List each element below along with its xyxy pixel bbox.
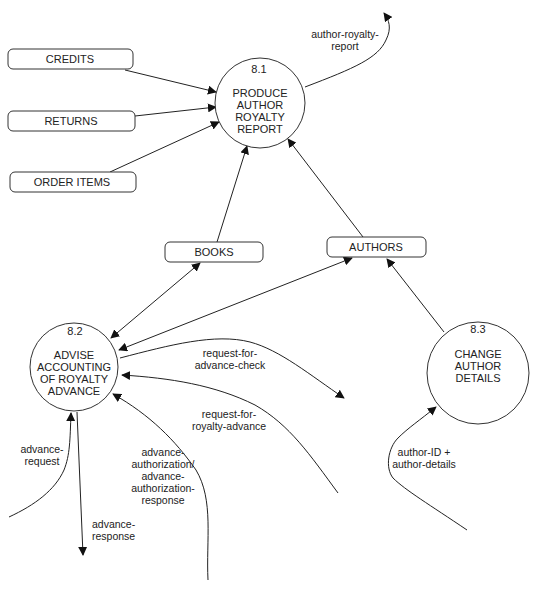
- flow-books-to-8-1: [217, 146, 247, 242]
- svg-text:authorization-: authorization-: [131, 482, 195, 494]
- flow-label-request-for-royalty-advance: request-for- royalty-advance: [192, 408, 266, 432]
- flow-returns-to-8-1: [135, 107, 216, 116]
- process-label-line: DETAILS: [455, 372, 500, 384]
- process-label-line: AUTHOR: [237, 99, 284, 111]
- process-label-line: ROYALTY: [235, 111, 285, 123]
- svg-text:royalty-advance: royalty-advance: [192, 420, 266, 432]
- data-store-label: RETURNS: [44, 115, 97, 127]
- flow-label-author-royalty-report: author-royalty- report: [311, 28, 379, 52]
- flow-advance-response: [77, 412, 83, 555]
- data-store-books[interactable]: BOOKS: [165, 242, 263, 262]
- flow-label-advance-request: advance- request: [20, 443, 64, 467]
- svg-text:author-details: author-details: [392, 458, 456, 470]
- data-store-label: BOOKS: [194, 246, 233, 258]
- flow-label-request-for-advance-check: request-for- advance-check: [195, 347, 266, 371]
- process-label-line: ADVISE: [54, 349, 94, 361]
- data-flow-diagram: CREDITS RETURNS ORDER ITEMS BOOKS AUTHOR…: [0, 0, 545, 595]
- flow-8-2-authors: [119, 258, 352, 350]
- process-label-line: PRODUCE: [232, 87, 287, 99]
- svg-text:request-for-: request-for-: [203, 347, 258, 359]
- svg-text:advance-: advance-: [141, 470, 185, 482]
- process-8-3[interactable]: 8.3 CHANGE AUTHOR DETAILS: [427, 322, 529, 424]
- process-8-1[interactable]: 8.1 PRODUCE AUTHOR ROYALTY REPORT: [215, 58, 305, 148]
- process-number: 8.1: [251, 63, 266, 75]
- svg-text:request: request: [24, 455, 59, 467]
- process-label-line: CHANGE: [454, 348, 501, 360]
- process-8-2[interactable]: 8.2 ADVISE ACCOUNTING OF ROYALTY ADVANCE: [30, 323, 118, 411]
- flow-8-3-to-authors: [387, 259, 444, 332]
- svg-text:report: report: [331, 40, 359, 52]
- svg-text:author-royalty-: author-royalty-: [311, 28, 379, 40]
- svg-text:advance-: advance-: [141, 446, 185, 458]
- data-store-label: CREDITS: [46, 53, 94, 65]
- process-label-line: REPORT: [237, 123, 283, 135]
- process-number: 8.3: [470, 323, 485, 335]
- svg-text:response: response: [141, 494, 184, 506]
- process-label-line: AUTHOR: [455, 360, 502, 372]
- data-store-authors[interactable]: AUTHORS: [327, 237, 426, 257]
- flow-8-2-books: [111, 263, 200, 338]
- svg-text:response: response: [92, 530, 135, 542]
- flow-credits-to-8-1: [125, 70, 216, 92]
- svg-text:advance-: advance-: [20, 443, 64, 455]
- process-label-line: ACCOUNTING: [37, 361, 111, 373]
- flow-label-advance-response: advance- response: [92, 518, 136, 542]
- process-label-line: ADVANCE: [48, 385, 100, 397]
- data-store-returns[interactable]: RETURNS: [8, 111, 135, 131]
- flow-label-advance-authorization: advance- authorization/ advance- authori…: [131, 446, 195, 506]
- svg-text:request-for-: request-for-: [202, 408, 257, 420]
- process-label-line: OF ROYALTY: [40, 373, 109, 385]
- data-store-label: AUTHORS: [349, 241, 403, 253]
- svg-text:authorization/: authorization/: [131, 458, 194, 470]
- svg-text:author-ID +: author-ID +: [398, 446, 451, 458]
- svg-text:advance-: advance-: [92, 518, 136, 530]
- flow-authors-to-8-1: [288, 139, 363, 237]
- svg-text:advance-check: advance-check: [195, 359, 266, 371]
- data-store-credits[interactable]: CREDITS: [8, 49, 133, 69]
- flow-label-author-id-details: author-ID + author-details: [392, 446, 456, 470]
- data-store-order-items[interactable]: ORDER ITEMS: [10, 172, 136, 192]
- process-number: 8.2: [67, 325, 82, 337]
- data-store-label: ORDER ITEMS: [34, 176, 110, 188]
